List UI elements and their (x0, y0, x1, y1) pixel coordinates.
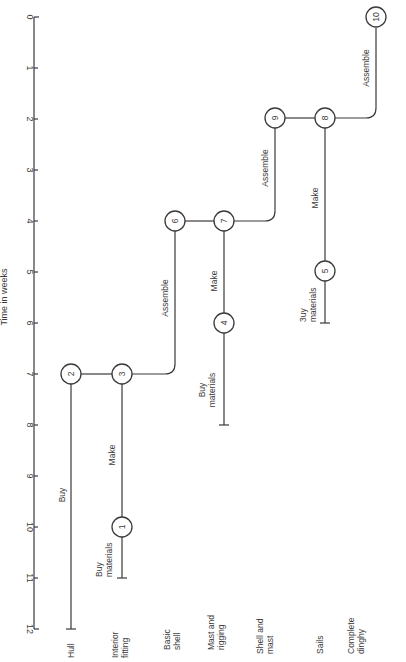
node-4: 4 (214, 313, 234, 333)
row-label-interior-fitting-1: Interior (110, 631, 120, 658)
interior-buy-label-2: materials (104, 543, 114, 577)
svg-text:7: 7 (219, 218, 229, 223)
svg-text:5: 5 (320, 268, 330, 273)
node-6: 6 (165, 211, 185, 231)
tick-12: 12 (25, 624, 35, 634)
node-10: 10 (366, 7, 386, 27)
node-7: 7 (214, 211, 234, 231)
tick-9: 9 (25, 473, 35, 478)
mast-buy-label-2: materials (207, 373, 217, 407)
tick-0: 0 (25, 14, 35, 19)
tick-8: 8 (25, 422, 35, 427)
sails-make-label: Make (310, 187, 320, 208)
node-8: 8 (315, 108, 335, 128)
row-label-shell-mast-1: Shell and (255, 618, 265, 654)
mast-make-label: Make (209, 270, 219, 291)
tick-11: 11 (25, 573, 35, 582)
svg-text:1: 1 (117, 524, 127, 529)
tick-4: 4 (25, 218, 35, 223)
svg-text:2: 2 (66, 371, 76, 376)
sails-buy-label-2: materials (308, 288, 318, 322)
tick-6: 6 (25, 320, 35, 325)
row-label-complete-dinghy-1: Complete (346, 617, 356, 654)
row-label-hull: Hull (66, 643, 76, 658)
sails-buy-label-1: 3uy (298, 308, 308, 322)
interior-buy-label-1: Buy (94, 562, 104, 577)
row-label-shell-mast-2: mast (265, 635, 275, 654)
time-axis: 0 1 2 3 4 5 6 7 8 9 10 11 12 Time in wee… (0, 14, 39, 634)
hull-buy-label: Buy (57, 487, 67, 502)
tick-10: 10 (25, 522, 35, 532)
svg-text:3: 3 (117, 371, 127, 376)
node-3: 3 (112, 364, 132, 384)
row-label-mast-rigging-2: rigging (216, 624, 226, 650)
basic-shell-assemble-label: Assemble (160, 279, 170, 317)
tick-2: 2 (25, 116, 35, 121)
row-label-basic-shell-1: Basic (162, 628, 172, 650)
svg-text:8: 8 (320, 115, 330, 120)
svg-text:10: 10 (371, 12, 381, 22)
dinghy-assemble-label: Assemble (361, 49, 371, 87)
row-labels: Hull Interior fitting Basic shell Mast a… (66, 615, 366, 658)
shell-mast-assemble-label: Assemble (260, 149, 270, 187)
row-label-basic-shell-2: shell (172, 632, 182, 650)
node-1: 1 (112, 517, 132, 537)
node-5: 5 (315, 261, 335, 281)
row-label-mast-rigging-1: Mast and (206, 615, 216, 650)
tick-1: 1 (25, 65, 35, 70)
tick-7: 7 (25, 371, 35, 376)
node-9: 9 (265, 108, 285, 128)
svg-text:4: 4 (219, 320, 229, 325)
mast-buy-label-1: Buy (197, 382, 207, 397)
row-label-interior-fitting-2: fitting (120, 637, 130, 658)
axis-title: Time in weeks (0, 268, 9, 326)
assembly-gantt-diagram: 0 1 2 3 4 5 6 7 8 9 10 11 12 Time in wee… (0, 0, 406, 662)
tick-5: 5 (25, 269, 35, 274)
interior-make-label: Make (107, 444, 117, 465)
tick-3: 3 (25, 167, 35, 172)
row-label-sails: Sails (315, 636, 325, 654)
svg-text:9: 9 (270, 115, 280, 120)
node-2: 2 (61, 364, 81, 384)
row-label-complete-dinghy-2: dinghy (356, 628, 366, 654)
svg-text:6: 6 (170, 218, 180, 223)
